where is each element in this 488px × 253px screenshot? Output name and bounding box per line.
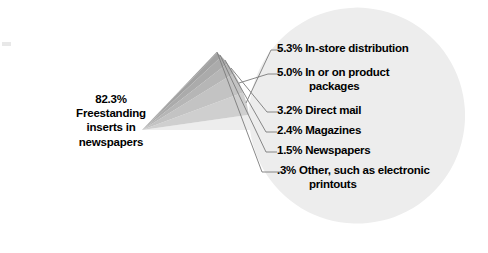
- callout-percent: 5.0%: [277, 66, 302, 78]
- callout-percent: 2.4%: [277, 124, 302, 136]
- callout-text-line1: 1.5% Newspapers: [277, 143, 370, 157]
- callout-label: Direct mail: [305, 104, 361, 116]
- callout-percent: 5.3%: [277, 42, 302, 54]
- callout-in-store-distribution: 5.3% In-store distribution: [277, 41, 409, 55]
- callout-newspapers: 1.5% Newspapers: [277, 143, 370, 157]
- pie-center-line2: Freestanding: [52, 106, 170, 120]
- callout-text-line1: 5.3% In-store distribution: [277, 41, 409, 55]
- callout-label: Magazines: [305, 124, 361, 136]
- callout-label: Newspapers: [305, 144, 370, 156]
- callout-text-line2: packages: [277, 79, 389, 93]
- callout-label: In or on product: [305, 66, 389, 78]
- callout-in-or-on-product-packages: 5.0% In or on product packages: [277, 65, 389, 93]
- callout-percent: 1.5%: [277, 144, 302, 156]
- callout-text-line2: printouts: [277, 177, 430, 191]
- callout-percent: 3.2%: [277, 104, 302, 116]
- callout-other-electronic-printouts: .3% Other, such as electronic printouts: [277, 163, 430, 191]
- pie-center-line3: inserts in: [52, 120, 170, 134]
- pie-center-percent: 82.3%: [52, 92, 170, 106]
- callout-text-line1: 2.4% Magazines: [277, 123, 361, 137]
- callout-label: In-store distribution: [305, 42, 408, 54]
- pie-center-label: 82.3% Freestanding inserts in newspapers: [52, 92, 170, 149]
- callout-magazines: 2.4% Magazines: [277, 123, 361, 137]
- callout-percent: .3%: [277, 164, 296, 176]
- callout-text-line1: 3.2% Direct mail: [277, 103, 361, 117]
- pie-center-line4: newspapers: [52, 135, 170, 149]
- pie-chart-figure: 82.3% Freestanding inserts in newspapers…: [0, 0, 488, 253]
- callout-direct-mail: 3.2% Direct mail: [277, 103, 361, 117]
- callout-label: Other, such as electronic: [299, 164, 430, 176]
- callout-text-line1: 5.0% In or on product: [277, 65, 389, 79]
- callout-text-line1: .3% Other, such as electronic: [277, 163, 430, 177]
